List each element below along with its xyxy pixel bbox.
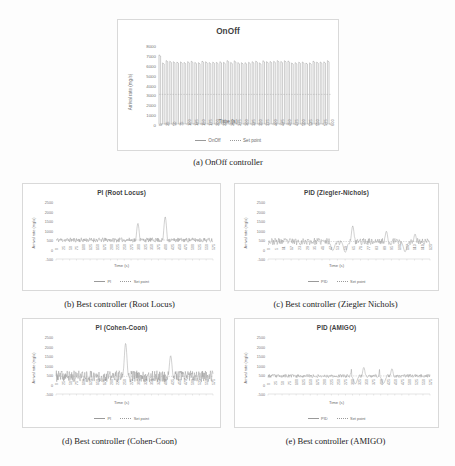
plot-area-a [159,45,331,124]
legend-item-setpoint: Set point [337,416,366,421]
line-dashed-icon [337,418,348,419]
y-tick-labels-b: 25002000150010005000-500 [37,202,53,259]
series-line [159,55,331,124]
chart-title-a: OnOff [118,27,338,36]
line-solid-icon [195,140,206,141]
plot-svg-e [268,337,430,394]
legend-item-setpoint: Set point [230,138,262,143]
line-dashed-icon [337,281,348,282]
chart-panel-pi-root-locus: PI (Root Locus) Arrival rate (mg/s) 2500… [22,183,221,291]
x-axis-title-b: Time (s) [23,263,220,268]
x-axis-title-d: Time (s) [23,400,220,405]
legend-e: PID Set point [235,416,438,421]
plot-svg-b [56,202,213,259]
legend-item-series: PI [94,279,111,284]
legend-label-series: OnOff [208,138,220,143]
legend-label-series: PI [107,416,111,421]
chart-title-b: PI (Root Locus) [23,189,220,196]
legend-label-series: PID [321,416,328,421]
chart-panel-onoff: OnOff Arrival rate (mg/s) 80007000600050… [117,19,339,151]
x-axis-title-a: Time (s) [118,118,338,124]
caption-d: (d) Best controller (Cohen-Coon) [12,436,227,446]
y-axis-title-c: Arrival rate (mg/s) [243,204,248,262]
series-line [268,226,430,252]
legend-label-setpoint: Set point [243,138,261,143]
chart-panel-pid-amigo: PID (AMIGO) Arrival rate (mg/s) 25002000… [234,318,439,428]
caption-a: (a) OnOff controller [117,157,339,167]
line-solid-icon [94,281,105,282]
legend-item-setpoint: Set point [120,279,149,284]
legend-item-series: PI [94,416,111,421]
chart-title-e: PID (AMIGO) [235,324,438,331]
caption-e: (e) Best controller (AMIGO) [228,436,443,446]
chart-panel-pi-cohen-coon: PI (Cohen-Coon) Arrival rate (mg/s) 2500… [22,318,221,428]
line-dashed-icon [230,140,241,141]
line-solid-icon [308,281,319,282]
y-tick-labels-d: 25002000150010005000-500 [37,337,53,394]
legend-label-setpoint: Set point [350,416,365,421]
caption-b: (b) Best controller (Root Locus) [12,299,227,309]
legend-label-setpoint: Set point [134,279,149,284]
line-dashed-icon [120,281,131,282]
plot-area-e [268,337,430,394]
plot-svg-c [268,202,430,259]
y-axis-title-e: Arrival rate (mg/s) [243,339,248,397]
y-axis-title-d: Arrival rate (mg/s) [31,339,36,397]
series-line [268,367,430,383]
chart-title-d: PI (Cohen-Coon) [23,324,220,331]
figure-page: OnOff Arrival rate (mg/s) 80007000600050… [0,0,455,466]
series-line [56,217,213,242]
plot-area-b [56,202,213,259]
x-axis-title-c: Time (s) [235,263,438,268]
legend-label-series: PI [107,279,111,284]
line-solid-icon [94,418,105,419]
legend-label-setpoint: Set point [350,279,365,284]
plot-svg-a [159,45,331,124]
x-axis-title-e: Time (s) [235,400,438,405]
legend-item-series: OnOff [195,138,221,143]
legend-label-series: PID [321,279,328,284]
y-tick-labels-a: 800070006000500040003000200010000 [138,45,156,124]
line-dashed-icon [120,418,131,419]
legend-label-setpoint: Set point [134,416,149,421]
legend-item-series: PID [308,279,328,284]
y-tick-labels-e: 25002000150010005000-500 [249,337,265,394]
legend-c: PID Set point [235,279,438,284]
caption-c: (c) Best controller (Ziegler Nichols) [228,299,443,309]
plot-svg-d [56,337,213,394]
plot-area-c [268,202,430,259]
legend-item-setpoint: Set point [120,416,149,421]
plot-area-d [56,337,213,394]
chart-panel-pid-ziegler-nichols: PID (Ziegler-Nichols) Arrival rate (mg/s… [234,183,439,291]
legend-item-series: PID [308,416,328,421]
y-tick-labels-c: 25002000150010005000-500 [249,202,265,259]
line-solid-icon [308,418,319,419]
legend-a: OnOff Set point [118,138,338,143]
chart-title-c: PID (Ziegler-Nichols) [235,189,438,196]
legend-d: PI Set point [23,416,220,421]
legend-item-setpoint: Set point [337,279,366,284]
y-axis-title-b: Arrival rate (mg/s) [31,204,36,262]
legend-b: PI Set point [23,279,220,284]
